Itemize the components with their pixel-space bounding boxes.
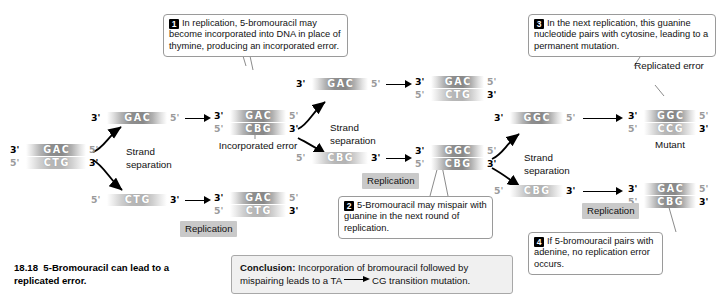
strand-sequence: CTG <box>431 89 484 101</box>
col3-normal-bottom-left-end: 5' <box>415 89 424 101</box>
normaltop-top-left-end: 3' <box>214 192 223 204</box>
strand-sequence: CCG <box>644 123 696 135</box>
label-incorporated-error: Incorporated error <box>212 140 304 153</box>
single-gac1-left-end: 3' <box>91 112 100 124</box>
mispaired-top-right-end: 5' <box>487 145 496 157</box>
conclusion-text-part2: CG transition mutation. <box>372 275 470 286</box>
normaltop-top-right-end: 5' <box>289 192 298 204</box>
single-cbg2-right-end: 3' <box>371 152 380 164</box>
callout-2-text: 5-Bromouracil may mispair with guanine i… <box>344 200 487 233</box>
strand-col3-normal-bottom: CTG <box>431 89 484 101</box>
callout-4-badge: 4 <box>534 237 544 247</box>
col3-normal-top-left-end: 3' <box>415 76 424 88</box>
single-ggc3-left-end: 3' <box>494 112 503 124</box>
callout-2-badge: 2 <box>344 201 354 211</box>
strand-sequence: GAC <box>644 183 696 195</box>
single-gac2-right-end: 5' <box>371 78 380 90</box>
arrow-replication-1-bottom <box>185 196 211 205</box>
strand-original-top: GAC <box>26 144 86 156</box>
strand-sequence: GAC <box>107 112 167 124</box>
leader-callout-1 <box>243 56 253 70</box>
strand-sequence: CTG <box>107 194 167 206</box>
single-ggc3-right-end: 5' <box>566 112 575 124</box>
mispaired-top-left-end: 3' <box>415 145 424 157</box>
strand-single-ggc-3: GGC <box>510 112 563 124</box>
strand-original-bottom: CTG <box>26 157 86 169</box>
strand-incorporated-bottom: CBG <box>230 123 286 135</box>
figure-caption: 18.18 5-Bromouracil can lead to a replic… <box>14 262 204 287</box>
strand-col3-normal-top: GAC <box>431 76 484 88</box>
mutant-bottom-left-end: 5' <box>628 123 637 135</box>
mutant-bottom-right-end: 3' <box>699 123 708 135</box>
strand-sequence: CTG <box>230 205 286 217</box>
conclusion-lead: Conclusion: <box>240 262 295 273</box>
incorporated-bottom-left-end: 5' <box>214 123 223 135</box>
tag-replication-3: Replication <box>582 203 639 219</box>
mutant-top-left-end: 3' <box>628 110 637 122</box>
strand-sequence: CTG <box>26 157 86 169</box>
callout-4: 4If 5-bromouracil pairs with adenine, no… <box>528 232 663 275</box>
single-ctg1-right-end: 3' <box>170 194 179 206</box>
original-top-left-end: 3' <box>10 144 19 156</box>
strand-restored-top: GAC <box>644 183 696 195</box>
strand-single-cbg-3: CBG <box>510 185 563 197</box>
conclusion-box: Conclusion: Incorporation of bromouracil… <box>231 255 513 294</box>
original-bottom-left-end: 5' <box>10 157 19 169</box>
incorporated-top-right-end: 5' <box>289 110 298 122</box>
single-ctg1-left-end: 5' <box>91 194 100 206</box>
callout-1-badge: 1 <box>169 19 179 29</box>
leader-replicated-error <box>655 85 664 96</box>
restored-top-left-end: 3' <box>628 183 637 195</box>
mispaired-bottom-right-end: 3' <box>487 158 496 170</box>
restored-bottom-right-end: 3' <box>699 196 708 208</box>
strand-sequence: GGC <box>644 110 696 122</box>
single-cbg3-right-end: 3' <box>566 185 575 197</box>
strand-single-gac-2: GAC <box>312 78 368 90</box>
single-gac2-left-end: 3' <box>296 78 305 90</box>
tag-replication-2: Replication <box>362 173 419 189</box>
transition-arrow-icon <box>344 276 370 283</box>
callout-4-text: If 5-bromouracil pairs with adenine, no … <box>534 236 653 269</box>
strand-sequence: GGC <box>431 145 484 157</box>
col3-normal-top-right-end: 5' <box>487 76 496 88</box>
strand-single-cbg-2: CBG <box>312 152 368 164</box>
col3-normal-bottom-right-end: 3' <box>487 89 496 101</box>
strand-sequence: GAC <box>26 144 86 156</box>
single-cbg3-left-end: 5' <box>494 185 503 197</box>
strand-normaltop-bottom: CTG <box>230 205 286 217</box>
strand-incorporated-top: GAC <box>230 110 286 122</box>
strand-mispaired-top: GGC <box>431 145 484 157</box>
figure-caption-text: 5-Bromouracil can lead to a replicated e… <box>14 262 169 286</box>
strand-mutant-top: GGC <box>644 110 696 122</box>
label-replicated-error: Replicated error <box>630 60 708 73</box>
label-strand-separation-2: Strand separation <box>330 122 384 147</box>
strand-sequence: GAC <box>230 110 286 122</box>
original-bottom-right-end: 3' <box>89 157 98 169</box>
original-top-right-end: 5' <box>89 144 98 156</box>
label-strand-separation-1: Strand separation <box>126 146 178 171</box>
normaltop-bottom-left-end: 5' <box>214 205 223 217</box>
strand-single-ctg-1: CTG <box>107 194 167 206</box>
callout-3-text: In the next replication, this guanine nu… <box>534 18 708 51</box>
arrow-replication-3-top <box>583 114 623 123</box>
callout-2: 25-Bromouracil may mispair with guanine … <box>338 196 493 239</box>
incorporated-bottom-right-end: 3' <box>289 123 298 135</box>
leader-callout-4 <box>668 204 676 232</box>
strand-sequence: CBG <box>431 158 484 170</box>
strand-sequence: GAC <box>431 76 484 88</box>
strand-sequence: GAC <box>230 192 286 204</box>
arrow-replication-2-top <box>386 80 412 89</box>
callout-1-text: In replication, 5-bromouracil may become… <box>169 18 341 51</box>
strand-restored-bottom: CBG <box>644 196 696 208</box>
strand-mutant-bottom: CCG <box>644 123 696 135</box>
strand-mispaired-bottom: CBG <box>431 158 484 170</box>
callout-3: 3In the next replication, this guanine n… <box>528 14 716 57</box>
mispaired-bottom-left-end: 5' <box>415 158 424 170</box>
restored-top-right-end: 5' <box>699 183 708 195</box>
strand-sequence: CBG <box>510 185 563 197</box>
arrow-replication-3-bottom <box>583 187 623 196</box>
figure-canvas: 1In replication, 5-bromouracil may becom… <box>0 0 727 303</box>
callout-1: 1In replication, 5-bromouracil may becom… <box>163 14 348 57</box>
callout-3-badge: 3 <box>534 19 544 29</box>
strand-sequence: CBG <box>312 152 368 164</box>
